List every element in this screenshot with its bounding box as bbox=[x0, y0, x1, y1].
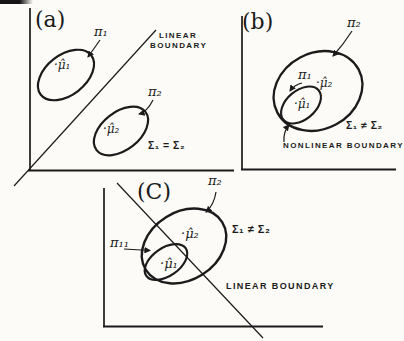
panel-c-linear-boundary-line bbox=[117, 183, 263, 338]
panel-b-covariance-note: Σ₁ ≠ Σ₂ bbox=[346, 119, 383, 131]
panel-a-pi1-label: π₁ bbox=[94, 25, 108, 39]
panel-c-mu1-label: ·μ̂₁ bbox=[160, 257, 178, 270]
panel-c-pi2-label: π₂ bbox=[208, 174, 222, 188]
panel-c-boundary-label: LINEAR BOUNDARY bbox=[226, 281, 335, 291]
figure-canvas: (a) π₁ π₂ ·μ̂₁ ·μ̂₂ LINEAR BOUNDARY Σ₁ =… bbox=[0, 0, 404, 341]
panel-a-pi1-arrow bbox=[88, 40, 100, 57]
panel-a-ellipse-pi2 bbox=[85, 97, 157, 165]
panel-a-boundary-label-line2: BOUNDARY bbox=[150, 41, 206, 51]
panel-b-nonlinear-boundary-arrow bbox=[284, 125, 289, 142]
panel-b-pi2-label: π₂ bbox=[347, 16, 361, 30]
panel-c-covariance-note: Σ₁ ≠ Σ₂ bbox=[232, 223, 270, 235]
panel-a-mu2-label: ·μ̂₂ bbox=[103, 123, 119, 136]
panel-c-letter: (C) bbox=[137, 180, 171, 204]
figure-drawing bbox=[0, 0, 404, 341]
panel-c-pi2-arrow bbox=[206, 192, 216, 212]
panel-a-covariance-note: Σ₁ = Σ₂ bbox=[148, 139, 185, 151]
panel-a-mu1-label: ·μ̂₁ bbox=[54, 59, 70, 72]
panel-c-pi1-label: π₁₁ bbox=[110, 236, 129, 250]
panel-a-linear-boundary-line bbox=[14, 30, 156, 186]
panel-c-drawing bbox=[103, 183, 323, 338]
panel-a-pi2-label: π₂ bbox=[148, 85, 162, 99]
panel-b-pi1-label: π₁ bbox=[298, 68, 312, 82]
panel-a-letter: (a) bbox=[35, 8, 65, 32]
panel-c-mu2-label: ·μ̂₂ bbox=[181, 227, 199, 240]
panel-b-boundary-label: NONLINEAR BOUNDARY bbox=[283, 141, 404, 151]
panel-b-mu1-label: ·μ̂₁ bbox=[294, 98, 310, 111]
panel-a-boundary-label-line1: LINEAR bbox=[150, 31, 206, 41]
panel-b-mu2-label: ·μ̂₂ bbox=[316, 77, 332, 90]
panel-b-letter: (b) bbox=[242, 10, 273, 34]
panel-b-pi2-arrow bbox=[333, 31, 352, 56]
